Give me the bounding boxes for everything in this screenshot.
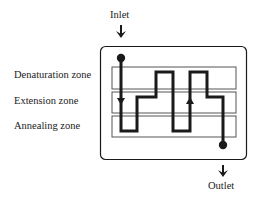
flow-channel	[121, 57, 223, 145]
outlet-port	[219, 141, 227, 149]
outlet-arrow-icon	[218, 165, 228, 177]
inlet-arrow-icon	[116, 25, 126, 38]
inlet-port	[117, 54, 125, 62]
flow-direction-up-icon	[186, 97, 194, 104]
flow-direction-down-icon	[117, 98, 125, 105]
pcr-chip-diagram	[0, 0, 262, 200]
